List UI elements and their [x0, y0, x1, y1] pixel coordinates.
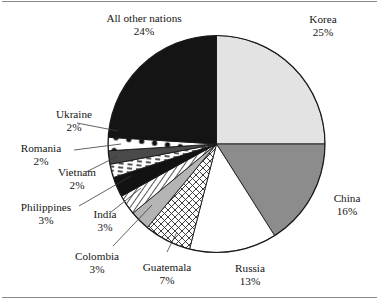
slice-label-all-other-nations: All other nations 24%	[79, 12, 209, 37]
label-name-philippines: Philippines	[12, 201, 80, 214]
label-name-colombia: Colombia	[60, 250, 134, 263]
label-percent-philippines: 3%	[12, 214, 80, 227]
label-name-china: China	[318, 192, 376, 205]
label-percent-vietnam: 2%	[46, 179, 108, 192]
label-name-russia: Russia	[219, 262, 281, 275]
label-percent-korea: 25%	[290, 26, 356, 39]
slice-label-guatemala: Guatemala 7%	[124, 261, 210, 286]
label-name-all-other-nations: All other nations	[79, 12, 209, 25]
label-name-india: India	[82, 208, 128, 221]
pie-slice-all-other-nations	[108, 35, 216, 144]
label-percent-colombia: 3%	[60, 263, 134, 276]
slice-label-vietnam: Vietnam 2%	[46, 166, 108, 191]
label-percent-ukraine: 2%	[43, 121, 105, 134]
label-name-korea: Korea	[290, 13, 356, 26]
slice-label-colombia: Colombia 3%	[60, 250, 134, 275]
label-percent-india: 3%	[82, 221, 128, 234]
label-name-vietnam: Vietnam	[46, 166, 108, 179]
label-percent-china: 16%	[318, 205, 376, 218]
label-percent-russia: 13%	[219, 275, 281, 288]
slice-label-india: India 3%	[82, 208, 128, 233]
figure-container: All other nations 24% Korea 25% China 16…	[0, 0, 379, 306]
label-percent-romania: 2%	[9, 155, 73, 168]
label-name-guatemala: Guatemala	[124, 261, 210, 274]
slice-label-philippines: Philippines 3%	[12, 201, 80, 226]
pie-slice-korea	[217, 36, 326, 145]
slice-label-korea: Korea 25%	[290, 13, 356, 38]
label-name-ukraine: Ukraine	[43, 108, 105, 121]
label-name-romania: Romania	[9, 142, 73, 155]
slice-label-romania: Romania 2%	[9, 142, 73, 167]
label-percent-guatemala: 7%	[124, 274, 210, 287]
slice-label-china: China 16%	[318, 192, 376, 217]
slice-label-russia: Russia 13%	[219, 262, 281, 287]
label-percent-all-other-nations: 24%	[79, 25, 209, 38]
slice-label-ukraine: Ukraine 2%	[43, 108, 105, 133]
